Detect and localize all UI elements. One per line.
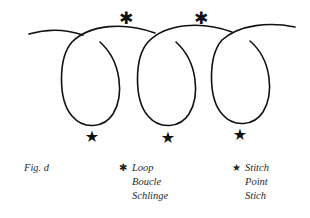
star-icon: ★: [232, 161, 241, 175]
legend-loop-en: Loop: [132, 161, 154, 175]
asterisk-icon: ✱: [119, 8, 133, 28]
asterisk-icon: ✱: [194, 8, 208, 28]
legend-loop-fr: Boucle: [132, 175, 161, 189]
legend-stitch-en: Stitch: [245, 161, 269, 175]
star-icon: ★: [233, 125, 247, 144]
loop-2-outer: [138, 25, 233, 125]
legend-loop-de: Schlinge: [132, 189, 168, 203]
legend-stitch-de: Stich: [245, 189, 266, 203]
legend-stitch-fr: Point: [245, 175, 268, 189]
lead-arc: [29, 30, 83, 35]
loop-3-outer: [212, 25, 296, 124]
figure-label: Fig. d: [24, 161, 49, 175]
asterisk-icon: ✱: [119, 161, 127, 175]
loop-1-outer: [62, 26, 156, 125]
loop-stitch-diagram: ✱ ✱ ★ ★ ★: [0, 0, 310, 150]
star-icon: ★: [85, 127, 99, 146]
star-icon: ★: [161, 128, 175, 147]
